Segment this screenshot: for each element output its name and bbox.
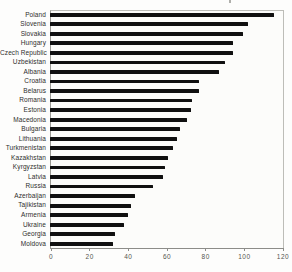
bar-track — [50, 220, 283, 229]
chart-row: Latvia — [0, 173, 283, 182]
x-tick-label: 60 — [163, 253, 171, 260]
chart-row: Albania — [0, 68, 283, 77]
bar — [50, 99, 192, 103]
category-label: Poland — [0, 12, 50, 19]
bar-track — [50, 173, 283, 182]
chart-rows: PolandSloveniaSlovakiaHungaryCzech Repub… — [0, 10, 283, 249]
category-label: Estonia — [0, 107, 50, 114]
bar-track — [50, 144, 283, 153]
bar-track — [50, 115, 283, 124]
category-label: Moldova — [0, 241, 50, 248]
chart-row: Slovakia — [0, 29, 283, 38]
bar-track — [50, 29, 283, 38]
chart-row: Georgia — [0, 230, 283, 239]
bar — [50, 204, 131, 208]
bar-track — [50, 48, 283, 57]
bar-track — [50, 77, 283, 86]
category-label: Uzbekistan — [0, 59, 50, 66]
chart-row: Czech Republic — [0, 48, 283, 57]
bar — [50, 137, 177, 141]
category-label: Azerbaijan — [0, 193, 50, 200]
bar-track — [50, 201, 283, 210]
x-tick-label: 0 — [49, 253, 53, 260]
bar-track — [50, 192, 283, 201]
bar — [50, 32, 243, 36]
bar — [50, 51, 233, 55]
page-edge-artifact — [229, 0, 231, 3]
bar-track — [50, 39, 283, 48]
bar-track — [50, 20, 283, 29]
chart-row: Turkmenistan — [0, 144, 283, 153]
category-label: Kyrgyzstan — [0, 164, 50, 171]
chart-row: Poland — [0, 10, 283, 19]
bar-track — [50, 163, 283, 172]
category-label: Bulgaria — [0, 126, 50, 133]
x-tick-label: 40 — [124, 253, 132, 260]
bar-track — [50, 134, 283, 143]
bar — [50, 242, 113, 246]
category-label: Belarus — [0, 88, 50, 95]
bar — [50, 223, 124, 227]
bar-track — [50, 68, 283, 77]
bar — [50, 166, 165, 170]
bar — [50, 175, 163, 179]
x-tick — [51, 248, 52, 251]
bar — [50, 61, 225, 65]
category-label: Kazakhstan — [0, 155, 50, 162]
category-label: Slovenia — [0, 21, 50, 28]
category-label: Georgia — [0, 231, 50, 238]
x-tick — [283, 248, 284, 251]
chart-row: Hungary — [0, 39, 283, 48]
x-tick-label: 100 — [238, 253, 250, 260]
category-label: Slovakia — [0, 31, 50, 38]
category-label: Lithuania — [0, 136, 50, 143]
chart-row: Uzbekistan — [0, 58, 283, 67]
bar — [50, 232, 115, 236]
x-tick — [128, 248, 129, 251]
chart-row: Armenia — [0, 211, 283, 220]
bar — [50, 42, 233, 46]
bar — [50, 185, 153, 189]
category-label: Czech Republic — [0, 50, 50, 57]
x-axis: 020406080100120 — [51, 248, 283, 268]
category-label: Croatia — [0, 78, 50, 85]
category-label: Macedonia — [0, 117, 50, 124]
bar-track — [50, 87, 283, 96]
chart-row: Bulgaria — [0, 125, 283, 134]
chart-row: Croatia — [0, 77, 283, 86]
bar — [50, 80, 199, 84]
x-tick — [89, 248, 90, 251]
x-tick-label: 120 — [277, 253, 289, 260]
bar — [50, 70, 219, 74]
bar-track — [50, 10, 283, 19]
bar — [50, 22, 248, 26]
bar — [50, 89, 199, 93]
chart-row: Macedonia — [0, 115, 283, 124]
x-tick — [167, 248, 168, 251]
category-label: Tajikistan — [0, 202, 50, 209]
bar-track — [50, 230, 283, 239]
chart-row: Kazakhstan — [0, 153, 283, 162]
category-label: Albania — [0, 69, 50, 76]
bar-track — [50, 182, 283, 191]
chart-row: Romania — [0, 96, 283, 105]
x-tick — [244, 248, 245, 251]
chart-row: Russia — [0, 182, 283, 191]
x-tick-label: 80 — [202, 253, 210, 260]
bar-track — [50, 106, 283, 115]
bar — [50, 108, 191, 112]
category-label: Ukraine — [0, 222, 50, 229]
bar-track — [50, 125, 283, 134]
chart-row: Lithuania — [0, 134, 283, 143]
chart-row: Azerbaijan — [0, 192, 283, 201]
bar — [50, 127, 180, 131]
bar — [50, 213, 128, 217]
bar — [50, 194, 135, 198]
bar — [50, 118, 187, 122]
bar-chart-figure: PolandSloveniaSlovakiaHungaryCzech Repub… — [0, 0, 292, 272]
category-label: Russia — [0, 183, 50, 190]
bar — [50, 147, 173, 151]
bar-track — [50, 153, 283, 162]
bar — [50, 13, 274, 17]
chart-row: Slovenia — [0, 20, 283, 29]
